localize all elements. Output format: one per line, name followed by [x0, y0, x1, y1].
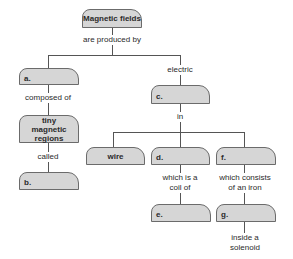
node-label: tiny magnetic regions	[24, 116, 74, 143]
node-c-blank: c.	[151, 85, 210, 104]
node-label: c.	[156, 92, 163, 101]
node-d-blank: d.	[151, 147, 210, 165]
link-in: in	[173, 112, 187, 122]
link-which-consists-of-an-iron: which consists of an iron	[217, 173, 273, 193]
link-electric: electric	[163, 65, 197, 75]
node-f-blank: f.	[216, 147, 276, 165]
line-branch-top	[48, 55, 181, 56]
line-branch-mid	[113, 132, 245, 133]
link-are-produced-by: are produced by	[78, 35, 146, 45]
node-label: d.	[156, 153, 163, 162]
link-inside-a-solenoid: inside a solenoid	[226, 233, 264, 253]
node-wire: wire	[86, 147, 145, 165]
node-label: a.	[24, 74, 31, 83]
node-label: Magnetic fields	[83, 14, 141, 23]
node-label: f.	[221, 153, 226, 162]
node-label: b.	[24, 178, 31, 187]
node-e-blank: e.	[151, 204, 211, 222]
concept-map: Magnetic fields a. tiny magnetic regions…	[0, 0, 293, 259]
node-label: e.	[156, 210, 163, 219]
link-which-is-a-coil-of: which is a coil of	[160, 173, 200, 193]
node-a-blank: a.	[19, 68, 79, 85]
line-to-wire	[113, 132, 114, 147]
node-b-blank: b.	[19, 172, 79, 190]
link-called: called	[30, 152, 66, 162]
node-label: g.	[221, 210, 228, 219]
node-tiny-magnetic-regions: tiny magnetic regions	[19, 115, 79, 143]
line-to-f	[244, 132, 245, 147]
node-label: wire	[107, 152, 123, 161]
line-to-a	[48, 55, 49, 68]
node-g-blank: g.	[216, 204, 276, 222]
link-composed-of: composed of	[18, 93, 78, 103]
line-to-d	[180, 132, 181, 147]
node-magnetic-fields: Magnetic fields	[82, 9, 142, 28]
